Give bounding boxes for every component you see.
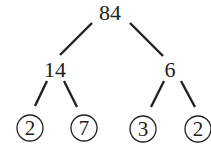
- edge-6-3: [151, 81, 164, 107]
- leaf-node-1: 2: [25, 116, 36, 140]
- factor-tree-diagram: 84 14 6 2 7 3 2: [0, 0, 211, 149]
- node-14: 14: [44, 57, 66, 82]
- edge-14-2: [35, 81, 47, 106]
- node-6: 6: [165, 57, 176, 82]
- leaf-node-2: 7: [79, 116, 90, 140]
- edge-6-2: [181, 81, 195, 107]
- leaf-node-4: 2: [193, 117, 204, 141]
- root-node: 84: [99, 0, 121, 25]
- edge-84-6: [130, 23, 163, 56]
- leaf-node-3: 3: [138, 117, 149, 141]
- edge-14-7: [64, 81, 77, 107]
- edge-84-14: [60, 23, 92, 55]
